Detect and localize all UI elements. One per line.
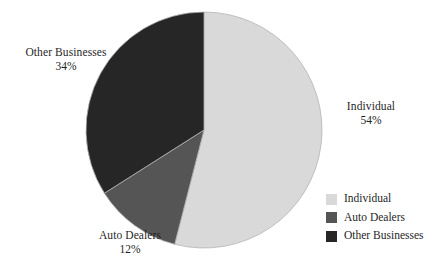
legend-item-label: Other Businesses	[344, 230, 424, 242]
callout-auto-dealers-value: 12%	[70, 242, 190, 256]
pie-chart-figure: Other Businesses 34% Individual 54% Auto…	[0, 0, 441, 268]
chart-legend: IndividualAuto DealersOther Businesses	[326, 193, 424, 242]
legend-swatch-icon	[326, 194, 337, 205]
legend-item-label: Auto Dealers	[344, 212, 405, 224]
legend-swatch-icon	[326, 231, 337, 242]
callout-individual-label: Individual	[326, 99, 416, 113]
legend-item-auto-dealers: Auto Dealers	[326, 212, 424, 224]
legend-item-individual: Individual	[326, 193, 424, 205]
callout-other-businesses-label: Other Businesses	[6, 45, 126, 59]
callout-individual: Individual 54%	[326, 99, 416, 127]
legend-swatch-icon	[326, 212, 337, 223]
callout-other-businesses: Other Businesses 34%	[6, 45, 126, 73]
callout-auto-dealers-label: Auto Dealers	[70, 228, 190, 242]
callout-individual-value: 54%	[326, 113, 416, 127]
legend-item-label: Individual	[344, 193, 391, 205]
callout-auto-dealers: Auto Dealers 12%	[70, 228, 190, 256]
legend-item-other-businesses: Other Businesses	[326, 230, 424, 242]
callout-other-businesses-value: 34%	[6, 59, 126, 73]
